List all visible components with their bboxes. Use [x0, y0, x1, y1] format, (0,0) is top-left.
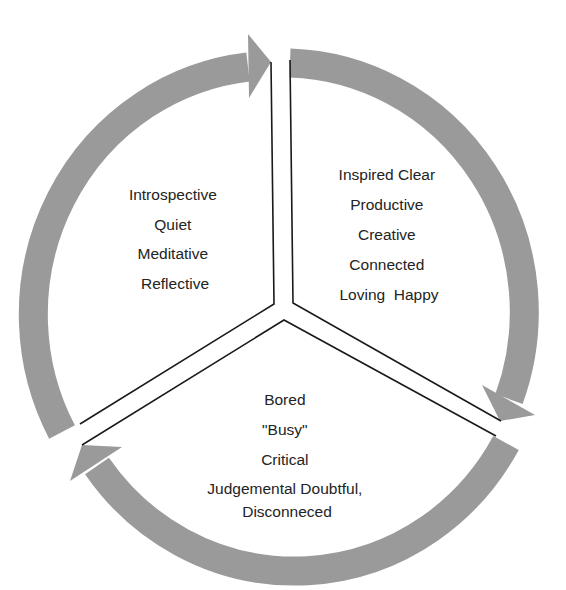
label-line: Disconneced — [242, 503, 332, 520]
label-line: Meditative — [138, 245, 209, 262]
label-line: Connected — [349, 256, 424, 273]
label-line: Bored — [264, 391, 305, 408]
label-line: Inspired Clear — [339, 166, 436, 183]
arrowhead-icon — [248, 34, 271, 98]
label-line: Critical — [261, 451, 308, 468]
label-line: Judgemental Doubtful, — [207, 480, 362, 497]
label-line: Introspective — [129, 186, 217, 203]
label-line: "Busy" — [262, 421, 307, 438]
segment-right-text: Inspired Clear Productive Creative Conne… — [339, 166, 440, 303]
segment-bottom-text: Bored "Busy" Critical Judgemental Doubtf… — [207, 391, 366, 520]
label-line: Loving Happy — [339, 286, 438, 303]
label-line: Quiet — [154, 216, 192, 233]
cycle-diagram: Introspective Quiet Meditative Reflectiv… — [0, 0, 566, 590]
segment-top-left-text: Introspective Quiet Meditative Reflectiv… — [129, 186, 221, 292]
label-line: Creative — [358, 226, 416, 243]
arrow-top-left-to-right — [33, 34, 271, 432]
label-line: Reflective — [141, 275, 209, 292]
label-line: Productive — [350, 196, 423, 213]
